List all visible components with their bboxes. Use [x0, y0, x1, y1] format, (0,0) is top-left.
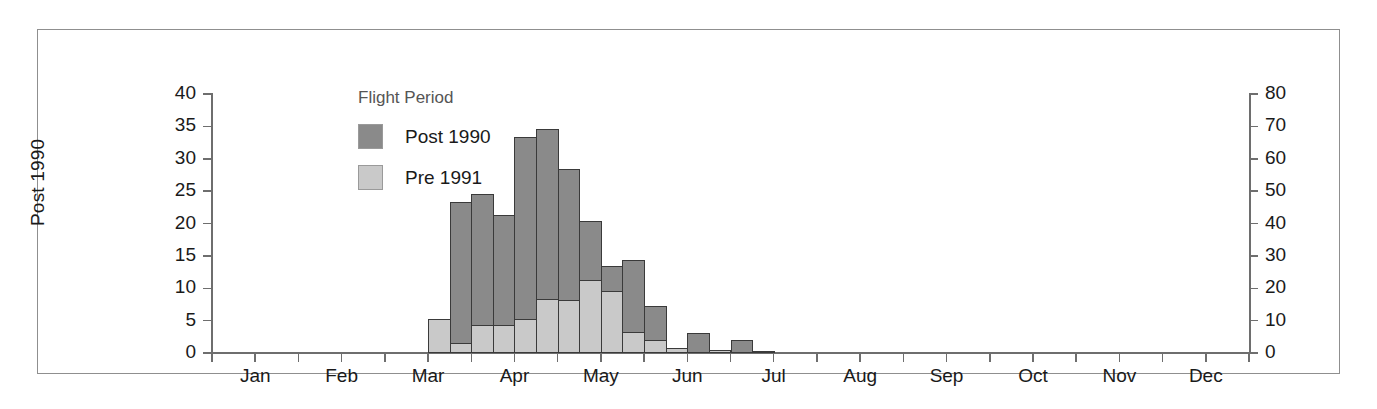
x-tick-label-feb: Feb — [302, 365, 382, 387]
x-tick — [427, 353, 429, 362]
x-tick-label-apr: Apr — [474, 365, 554, 387]
x-tick — [903, 353, 905, 362]
bar-pre-1991 — [644, 340, 667, 353]
right-y-tick-label: 10 — [1265, 309, 1311, 331]
left-y-tick — [203, 126, 212, 128]
bar-pre-1991 — [471, 325, 494, 353]
x-tick — [1075, 353, 1077, 362]
x-tick — [730, 353, 732, 362]
chart-frame: Post 1990 Pre 1991 0510152025303540 0102… — [37, 29, 1340, 374]
left-y-tick-label: 30 — [150, 147, 196, 169]
left-y-tick — [203, 320, 212, 322]
left-y-tick-label: 15 — [150, 244, 196, 266]
x-tick — [816, 353, 818, 362]
x-tick-label-may: May — [561, 365, 641, 387]
x-tick-label-jun: Jun — [647, 365, 727, 387]
x-tick — [600, 353, 602, 362]
x-tick-label-nov: Nov — [1079, 365, 1159, 387]
right-y-tick-label: 70 — [1265, 114, 1311, 136]
bar-pre-1991 — [709, 350, 732, 353]
bar-pre-1991 — [558, 300, 581, 353]
x-tick — [298, 353, 300, 362]
left-y-tick-label: 20 — [150, 212, 196, 234]
right-y-tick — [1249, 255, 1258, 257]
bar-post-1990 — [731, 340, 754, 353]
x-tick-label-oct: Oct — [993, 365, 1073, 387]
left-y-tick-label: 0 — [150, 341, 196, 363]
x-tick — [687, 353, 689, 362]
bar-post-1990 — [450, 202, 473, 354]
x-tick-label-sep: Sep — [907, 365, 987, 387]
right-y-tick — [1249, 158, 1258, 160]
bar-pre-1991 — [450, 343, 473, 353]
x-tick — [341, 353, 343, 362]
legend-item: Post 1990 — [358, 124, 491, 149]
x-tick — [1032, 353, 1034, 362]
bar-pre-1991 — [536, 299, 559, 353]
left-y-tick — [203, 288, 212, 290]
bar-pre-1991 — [622, 332, 645, 353]
bar-pre-1991 — [514, 319, 537, 353]
x-tick — [254, 353, 256, 362]
x-tick-label-mar: Mar — [388, 365, 468, 387]
bar-post-1990 — [687, 333, 710, 353]
bar-post-1990 — [752, 351, 775, 353]
x-tick — [514, 353, 516, 362]
left-y-tick-label: 40 — [150, 82, 196, 104]
right-y-tick — [1249, 126, 1258, 128]
right-y-tick-label: 40 — [1265, 212, 1311, 234]
x-tick — [946, 353, 948, 362]
x-tick-label-dec: Dec — [1166, 365, 1246, 387]
x-tick — [557, 353, 559, 362]
right-y-tick-label: 0 — [1265, 341, 1311, 363]
x-tick — [1205, 353, 1207, 362]
left-y-tick — [203, 190, 212, 192]
x-tick — [1162, 353, 1164, 362]
x-tick — [643, 353, 645, 362]
x-tick — [384, 353, 386, 362]
left-y-tick-label: 35 — [150, 114, 196, 136]
left-y-tick — [203, 158, 212, 160]
x-tick — [859, 353, 861, 362]
chart-screenshot: Post 1990 Pre 1991 0510152025303540 0102… — [0, 0, 1377, 409]
x-tick-label-jul: Jul — [734, 365, 814, 387]
legend-swatch-icon — [358, 165, 383, 190]
bar-pre-1991 — [601, 291, 624, 353]
chart-legend: Flight Period Post 1990Pre 1991 — [358, 88, 491, 206]
x-tick — [1119, 353, 1121, 362]
left-y-tick — [203, 93, 212, 95]
bar-pre-1991 — [428, 319, 451, 353]
x-tick — [773, 353, 775, 362]
right-y-tick — [1249, 320, 1258, 322]
left-y-tick — [203, 223, 212, 225]
legend-title: Flight Period — [358, 88, 491, 108]
right-y-tick-label: 20 — [1265, 276, 1311, 298]
right-y-tick — [1249, 352, 1258, 354]
right-y-tick — [1249, 93, 1258, 95]
legend-item: Pre 1991 — [358, 165, 491, 190]
right-y-tick-label: 60 — [1265, 147, 1311, 169]
x-tick — [1248, 353, 1250, 362]
left-y-tick-label: 10 — [150, 276, 196, 298]
legend-item-label: Post 1990 — [405, 126, 491, 148]
right-y-tick — [1249, 223, 1258, 225]
bar-pre-1991 — [579, 280, 602, 353]
x-tick — [989, 353, 991, 362]
bar-pre-1991 — [493, 325, 516, 353]
right-y-tick — [1249, 190, 1258, 192]
legend-items: Post 1990Pre 1991 — [358, 124, 491, 190]
x-tick-label-jan: Jan — [215, 365, 295, 387]
left-y-tick-label: 25 — [150, 179, 196, 201]
x-tick — [471, 353, 473, 362]
right-y-tick — [1249, 288, 1258, 290]
legend-item-label: Pre 1991 — [405, 167, 482, 189]
right-y-tick-label: 30 — [1265, 244, 1311, 266]
legend-swatch-icon — [358, 124, 383, 149]
x-tick-label-aug: Aug — [820, 365, 900, 387]
left-y-tick-label: 5 — [150, 309, 196, 331]
bar-pre-1991 — [666, 348, 689, 353]
x-tick — [211, 353, 213, 362]
right-y-tick-label: 80 — [1265, 82, 1311, 104]
right-y-tick-label: 50 — [1265, 179, 1311, 201]
left-axis-title: Post 1990 — [27, 139, 49, 226]
